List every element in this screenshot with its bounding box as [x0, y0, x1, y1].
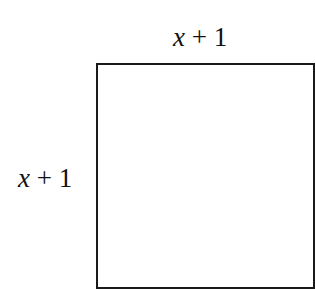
left-label-constant: 1	[59, 163, 73, 193]
top-label-variable: x	[173, 22, 185, 52]
left-label-variable: x	[18, 163, 30, 193]
left-side-label: x + 1	[18, 165, 72, 192]
top-label-operator: +	[185, 22, 214, 52]
top-label-constant: 1	[214, 22, 228, 52]
left-label-operator: +	[30, 163, 59, 193]
top-side-label: x + 1	[173, 24, 227, 51]
square-shape	[96, 63, 315, 289]
